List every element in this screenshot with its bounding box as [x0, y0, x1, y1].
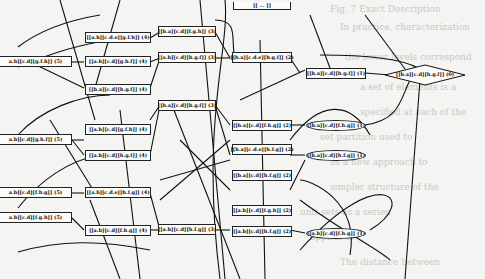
node-label: [[a.b][c.d][g.h.f]] (4) [89, 58, 147, 65]
node-label: [[a.b][c.d][h.g.f]] (3) [158, 54, 216, 61]
node-l2-4[interactable]: [[b.a][c.d][h.f.g]] (2) [232, 170, 292, 181]
edges [0, 0, 485, 279]
node-l4-1[interactable]: [[a.b][c.d.e][g.f.h]] (4) [85, 32, 151, 43]
node-label: [[b.a][c.d][f.h.g]] (2) [233, 122, 291, 129]
node-label: a.b][c.d][f.g.h]] (5) [9, 214, 63, 221]
node-label: [[a.b][c.d][g.f.h]] (4) [89, 126, 147, 133]
node-l3-2[interactable]: [[a.b][c.d][h.g.f]] (3) [158, 52, 216, 63]
node-l1-3[interactable]: [[b.a][c.d][h.f.g]] (1) [306, 150, 366, 161]
node-l3-4[interactable]: [[a.b][c.d][h.f.g]] (3) [158, 224, 216, 235]
node-label: [[b.a][c.d][h.f.g]] (2) [233, 172, 291, 179]
node-label: [[b.a][c.d][f.g.h]] (3) [158, 28, 216, 35]
node-label: [[a.b][c.d][h.g.f]] (4) [89, 152, 147, 159]
node-l4-2[interactable]: [[a.b][c.d][g.h.f]] (4) [85, 56, 151, 67]
node-l4-6[interactable]: [[a.b][c.d.e][h.f.g]] (4) [85, 187, 151, 198]
node-label: [[a.b][c.d][h.f.g]] (2) [233, 228, 291, 235]
node-l2-top[interactable]: [[ ... ]] [233, 2, 291, 10]
node-l1-4[interactable]: [[a.b][c.d][f.h.g]] (1) [306, 228, 366, 239]
node-label: [[b.a][c.d][h.g.f]] (1) [307, 70, 365, 77]
node-l3-1[interactable]: [[b.a][c.d][f.g.h]] (3) [158, 26, 216, 37]
node-label: [[b.a][c.d][f.h.g]] (1) [307, 122, 365, 129]
node-l2-2[interactable]: [[b.a][c.d][f.h.g]] (2) [232, 120, 292, 131]
node-label: a.b][c.d][g.f.h]] (5) [9, 58, 63, 65]
node-label: [[a.b][c.d.e][h.f.g]] (4) [86, 189, 149, 196]
node-label: [[a.b][c.d][f.h.g]] (1) [307, 230, 365, 237]
node-label: a.b][c.d][g.h.f]] (5) [9, 136, 63, 143]
node-l5-4[interactable]: a.b][c.d][f.g.h]] (5) [0, 212, 72, 223]
node-l4-4[interactable]: [[a.b][c.d][g.f.h]] (4) [85, 124, 151, 135]
node-l1-1[interactable]: [[b.a][c.d][h.g.f]] (1) [306, 68, 366, 79]
node-label: [[b.a][c.d][h.g.f]] (0) [396, 71, 454, 78]
node-label: [[a.b][c.d][h.f.g]] (3) [158, 226, 216, 233]
node-label: [[a.b][c.d][f.g.h]] (2) [233, 207, 291, 214]
node-l2-6[interactable]: [[a.b][c.d][h.f.g]] (2) [232, 226, 292, 237]
node-l4-7[interactable]: [[a.b][c.d][f.h.g]] (4) [85, 225, 151, 236]
node-label: [[b.a][c.d][h.g.f]] (3) [158, 102, 216, 109]
node-root[interactable]: [[b.a][c.d][h.g.f]] (0) [398, 69, 452, 80]
node-label: [[b.a][c.d][h.g.f]] (4) [89, 86, 147, 93]
node-l5-3[interactable]: a.b][c.d][f.h.g]] (5) [0, 187, 72, 198]
node-label: a.b][c.d][f.h.g]] (5) [9, 189, 63, 196]
node-label: [[a.b][c.d][f.h.g]] (4) [89, 227, 147, 234]
node-l5-2[interactable]: a.b][c.d][g.h.f]] (5) [0, 134, 72, 145]
node-l2-3[interactable]: [[b.a][c.d.e][h.f.g]] (2) [232, 144, 292, 155]
node-label: [[ ... ]] [253, 2, 271, 9]
node-l2-5[interactable]: [[a.b][c.d][f.g.h]] (2) [232, 205, 292, 216]
node-label: [[b.a][c.d.e][h.g.f]] (2) [230, 54, 293, 61]
node-l3-3[interactable]: [[b.a][c.d][h.g.f]] (3) [158, 100, 216, 111]
node-l1-2[interactable]: [[b.a][c.d][f.h.g]] (1) [306, 120, 366, 131]
node-l4-5[interactable]: [[a.b][c.d][h.g.f]] (4) [85, 150, 151, 161]
node-l5-1[interactable]: a.b][c.d][g.f.h]] (5) [0, 56, 72, 67]
node-l2-1[interactable]: [[b.a][c.d.e][h.g.f]] (2) [232, 52, 292, 63]
node-label: [[a.b][c.d.e][g.f.h]] (4) [86, 34, 149, 41]
node-label: [[b.a][c.d.e][h.f.g]] (2) [230, 146, 293, 153]
node-l4-3[interactable]: [[b.a][c.d][h.g.f]] (4) [85, 84, 151, 95]
node-label: [[b.a][c.d][h.f.g]] (1) [307, 152, 365, 159]
